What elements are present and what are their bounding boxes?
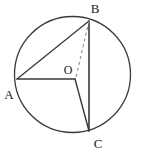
geometry-canvas: A B C O — [0, 0, 143, 155]
label-point-O: O — [64, 63, 73, 77]
segment-OC — [75, 79, 89, 131]
label-point-B: B — [91, 1, 100, 16]
segment-AB — [17, 21, 89, 79]
label-point-A: A — [4, 87, 14, 102]
label-point-C: C — [94, 136, 103, 151]
geometry-figure: A B C O — [0, 0, 143, 155]
